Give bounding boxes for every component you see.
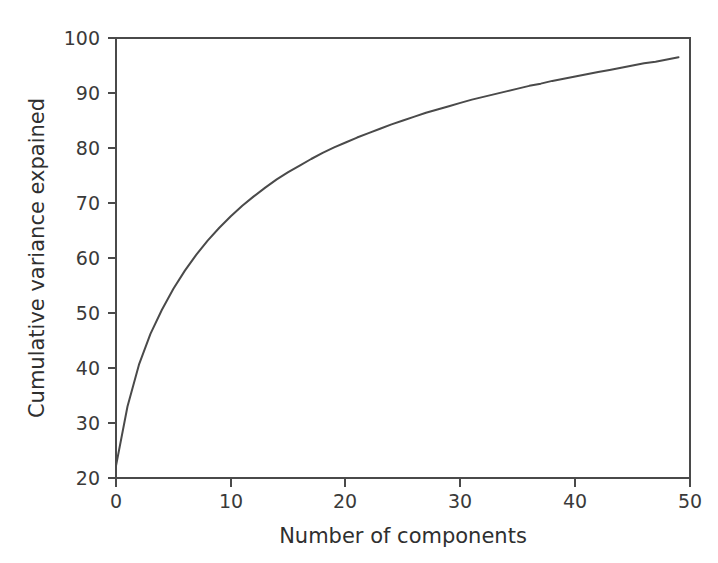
y-axis-tick-labels: 20 30 40 50 60 70 80 90 100 — [64, 27, 100, 489]
x-axis-ticks — [116, 478, 690, 487]
y-tick-label: 50 — [76, 302, 100, 324]
x-tick-label: 50 — [678, 490, 702, 512]
x-axis-title: Number of components — [279, 524, 527, 548]
y-tick-label: 60 — [76, 247, 100, 269]
y-tick-label: 20 — [76, 467, 100, 489]
plot-frame — [116, 38, 690, 478]
x-tick-label: 0 — [110, 490, 122, 512]
y-tick-label: 90 — [76, 82, 100, 104]
y-axis-ticks — [108, 38, 116, 478]
chart-figure: 20 30 40 50 60 70 80 90 100 0 10 20 30 4… — [0, 0, 718, 563]
y-tick-label: 40 — [76, 357, 100, 379]
y-tick-label: 70 — [76, 192, 100, 214]
x-axis-tick-labels: 0 10 20 30 40 50 — [110, 490, 702, 512]
x-tick-label: 10 — [219, 490, 243, 512]
x-tick-label: 40 — [563, 490, 587, 512]
x-tick-label: 30 — [448, 490, 472, 512]
y-tick-label: 80 — [76, 137, 100, 159]
y-tick-label: 30 — [76, 412, 100, 434]
y-tick-label: 100 — [64, 27, 100, 49]
data-series-line — [116, 57, 679, 466]
line-chart-canvas: 20 30 40 50 60 70 80 90 100 0 10 20 30 4… — [0, 0, 718, 563]
x-tick-label: 20 — [333, 490, 357, 512]
y-axis-title: Cumulative variance expained — [25, 98, 49, 418]
